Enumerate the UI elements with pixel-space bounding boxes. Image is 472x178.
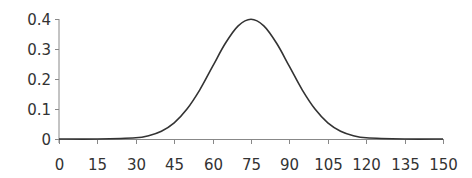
x-tick-label: 0 xyxy=(55,156,65,174)
x-tick-label: 30 xyxy=(127,156,146,174)
y-tick-label: 0.4 xyxy=(27,11,51,29)
y-tick-label: 0 xyxy=(41,131,51,149)
y-tick-label: 0.2 xyxy=(27,71,51,89)
normal-distribution-chart: 00.10.20.30.4 0153045607590105120135150 xyxy=(0,0,472,178)
x-tick-label: 75 xyxy=(242,156,261,174)
x-tick-label: 105 xyxy=(314,156,343,174)
x-axis: 0153045607590105120135150 xyxy=(55,139,458,174)
y-axis: 00.10.20.30.4 xyxy=(27,11,59,149)
y-tick-label: 0.1 xyxy=(27,101,51,119)
x-tick-label: 45 xyxy=(165,156,184,174)
x-tick-label: 60 xyxy=(204,156,223,174)
x-tick-label: 150 xyxy=(429,156,458,174)
y-tick-label: 0.3 xyxy=(27,41,51,59)
density-curve xyxy=(59,19,443,139)
x-tick-label: 135 xyxy=(391,156,420,174)
x-tick-label: 90 xyxy=(280,156,299,174)
x-tick-label: 120 xyxy=(352,156,381,174)
x-tick-label: 15 xyxy=(88,156,107,174)
